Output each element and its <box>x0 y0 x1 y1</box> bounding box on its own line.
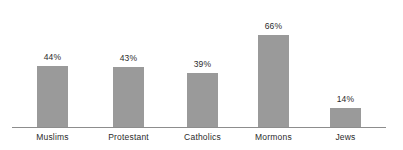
category-label-jews: Jews <box>310 132 381 142</box>
x-axis-line <box>12 127 386 128</box>
bar-rect <box>37 66 68 128</box>
bar-rect <box>258 35 289 128</box>
category-label-muslims: Muslims <box>17 132 88 142</box>
category-label-catholics: Catholics <box>167 132 238 142</box>
bar-value-label: 66% <box>265 21 283 31</box>
bar-value-label: 44% <box>44 52 62 62</box>
bar-group-jews: 14% <box>330 22 361 128</box>
bar-rect <box>330 108 361 128</box>
category-label-mormons: Mormons <box>238 132 309 142</box>
bar-group-muslims: 44% <box>37 22 68 128</box>
bar-rect <box>113 67 144 128</box>
bar-value-label: 14% <box>337 94 355 104</box>
plot-area: 44% 43% 39% 66% 14% Muslims Protestant C… <box>0 0 403 150</box>
bar-value-label: 43% <box>120 53 138 63</box>
bar-group-catholics: 39% <box>187 22 218 128</box>
bar-rect <box>187 73 218 128</box>
bar-value-label: 39% <box>194 59 212 69</box>
bar-chart: 44% 43% 39% 66% 14% Muslims Protestant C… <box>0 0 403 150</box>
category-label-protestant: Protestant <box>93 132 164 142</box>
bar-group-protestant: 43% <box>113 22 144 128</box>
bar-group-mormons: 66% <box>258 22 289 128</box>
